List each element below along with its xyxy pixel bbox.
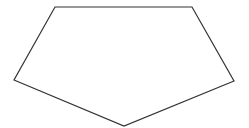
pentagon-shape [14, 7, 234, 126]
diagram-canvas [0, 0, 249, 128]
